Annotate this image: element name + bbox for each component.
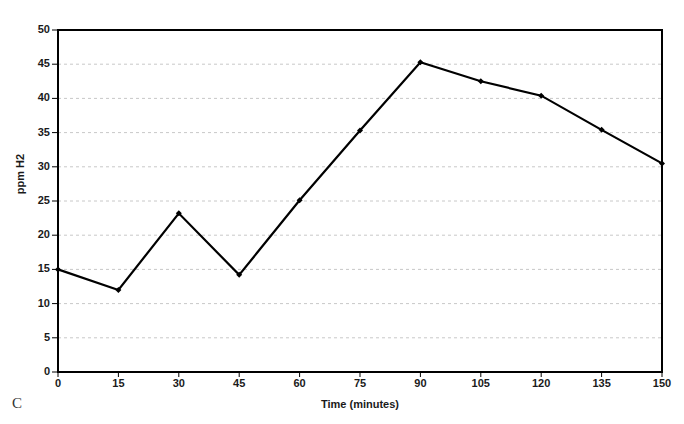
y-tick-15: 15 [16, 263, 50, 274]
y-tick-0: 0 [16, 366, 50, 377]
y-tick-5: 5 [16, 332, 50, 343]
x-tick-120: 120 [521, 378, 561, 389]
y-tick-50: 50 [16, 24, 50, 35]
x-tick-90: 90 [400, 378, 440, 389]
y-tick-40: 40 [16, 92, 50, 103]
x-tick-150: 150 [642, 378, 682, 389]
x-tick-105: 105 [461, 378, 501, 389]
y-tick-10: 10 [16, 298, 50, 309]
x-tick-45: 45 [219, 378, 259, 389]
y-axis-title: ppm H2 [14, 124, 26, 224]
panel-label: C [12, 396, 22, 411]
x-tick-135: 135 [582, 378, 622, 389]
line-chart-plot [0, 0, 684, 424]
x-axis-title: Time (minutes) [58, 398, 662, 410]
x-tick-60: 60 [280, 378, 320, 389]
chart-figure: 0 5 10 15 20 25 30 35 40 45 50 0 15 30 4… [0, 0, 684, 424]
x-tick-0: 0 [38, 378, 78, 389]
y-tick-45: 45 [16, 58, 50, 69]
x-tick-30: 30 [159, 378, 199, 389]
x-axis-tick-labels: 0 15 30 45 60 75 90 105 120 135 150 [0, 378, 684, 394]
x-tick-15: 15 [98, 378, 138, 389]
x-tick-75: 75 [340, 378, 380, 389]
y-tick-20: 20 [16, 229, 50, 240]
